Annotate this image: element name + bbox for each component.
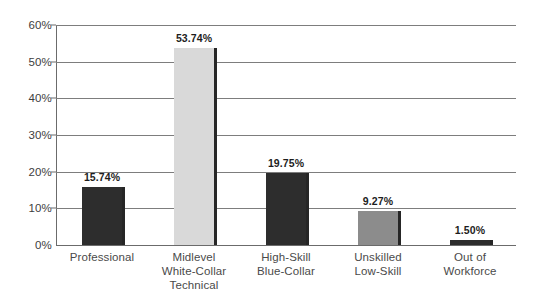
bar-fill bbox=[266, 173, 306, 245]
x-label-line: White-Collar bbox=[148, 264, 240, 278]
x-label-line: Midlevel bbox=[148, 250, 240, 264]
x-axis-label-professional: Professional bbox=[56, 250, 148, 264]
y-axis-labels: 0% 10% 20% 30% 40% 50% 60% bbox=[0, 25, 52, 246]
x-label-line: Professional bbox=[56, 250, 148, 264]
x-label-line: Technical bbox=[148, 278, 240, 292]
bar-value-label: 19.75% bbox=[268, 157, 304, 169]
bar-value-label: 15.74% bbox=[84, 171, 120, 183]
y-tick-label-3: 30% bbox=[6, 129, 52, 141]
y-tick-label-5: 50% bbox=[6, 56, 52, 68]
x-label-line: Unskilled bbox=[332, 250, 424, 264]
bar-high-skill-blue-collar: 19.75% bbox=[266, 173, 306, 245]
bar-value-label: 1.50% bbox=[455, 224, 485, 236]
bar-fill bbox=[450, 240, 490, 246]
x-axis-label-out-of-workforce: Out of Workforce bbox=[424, 250, 516, 278]
x-label-line: Low-Skill bbox=[332, 264, 424, 278]
bar-edge bbox=[306, 173, 309, 245]
x-axis-label-unskilled-low-skill: Unskilled Low-Skill bbox=[332, 250, 424, 278]
gridline-60 bbox=[56, 25, 516, 26]
y-tick-label-4: 40% bbox=[6, 92, 52, 104]
x-label-line: Out of bbox=[424, 250, 516, 264]
x-axis-labels: Professional Midlevel White-Collar Techn… bbox=[56, 250, 516, 300]
bar-value-label: 9.27% bbox=[363, 195, 393, 207]
bar-fill bbox=[82, 187, 122, 245]
bar-midlevel-white-collar-technical: 53.74% bbox=[174, 48, 214, 245]
x-label-line: Blue-Collar bbox=[240, 264, 332, 278]
x-label-line: High-Skill bbox=[240, 250, 332, 264]
bar-edge bbox=[122, 187, 125, 245]
bar-edge bbox=[490, 240, 493, 246]
gridline-30 bbox=[56, 135, 516, 136]
bar-edge bbox=[214, 48, 217, 245]
plot-area: 15.74% 53.74% 19.75% 9.27% 1.50% bbox=[56, 25, 516, 245]
bar-edge bbox=[398, 211, 401, 245]
x-axis-label-midlevel-white-collar-technical: Midlevel White-Collar Technical bbox=[148, 250, 240, 292]
bar-out-of-workforce: 1.50% bbox=[450, 240, 490, 246]
bar-chart: 0% 10% 20% 30% 40% 50% 60% bbox=[0, 0, 540, 303]
gridline-baseline-0 bbox=[56, 245, 516, 246]
gridline-50 bbox=[56, 62, 516, 63]
bar-professional: 15.74% bbox=[82, 187, 122, 245]
gridline-40 bbox=[56, 98, 516, 99]
bar-fill bbox=[174, 48, 214, 245]
bar-fill bbox=[358, 211, 398, 245]
bar-value-label: 53.74% bbox=[176, 32, 212, 44]
x-axis-label-high-skill-blue-collar: High-Skill Blue-Collar bbox=[240, 250, 332, 278]
y-tick-label-0: 0% bbox=[6, 239, 52, 251]
y-tick-label-1: 10% bbox=[6, 202, 52, 214]
bar-unskilled-low-skill: 9.27% bbox=[358, 211, 398, 245]
y-tick-label-2: 20% bbox=[6, 166, 52, 178]
y-tick-label-6: 60% bbox=[6, 19, 52, 31]
x-label-line: Workforce bbox=[424, 264, 516, 278]
